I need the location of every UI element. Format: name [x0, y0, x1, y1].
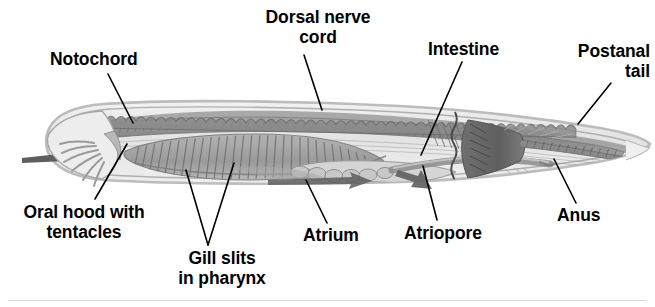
leader-line-postanal-tail — [578, 83, 611, 124]
label-anus-line-0: Anus — [557, 206, 600, 226]
label-atriopore-line-0: Atriopore — [404, 224, 482, 244]
label-dorsal-nerve-cord-line-0: Dorsal nerve — [266, 8, 371, 28]
label-anus: Anus — [557, 206, 600, 226]
label-oral-hood-with-tentacles-line-1: tentacles — [23, 223, 144, 243]
label-gill-slits-in-pharynx: Gill slitsin pharynx — [178, 249, 266, 288]
lancelet-body — [22, 101, 650, 190]
lancelet-anatomy-figure: NotochordDorsal nervecordIntestinePostan… — [0, 0, 655, 307]
label-atrium-line-0: Atrium — [303, 226, 359, 246]
caption-divider-rule — [8, 300, 647, 301]
label-postanal-tail: Postanaltail — [350, 42, 650, 81]
label-notochord-line-0: Notochord — [50, 50, 138, 70]
label-notochord: Notochord — [50, 50, 138, 70]
leader-line-atrium — [306, 180, 327, 223]
label-oral-hood-with-tentacles-line-0: Oral hood with — [23, 203, 144, 223]
label-gill-slits-in-pharynx-line-0: Gill slits — [178, 249, 266, 269]
label-gill-slits-in-pharynx-line-1: in pharynx — [178, 269, 266, 289]
label-postanal-tail-line-1: tail — [350, 62, 650, 82]
label-atrium: Atrium — [303, 226, 359, 246]
label-oral-hood-with-tentacles: Oral hood withtentacles — [23, 203, 144, 242]
label-postanal-tail-line-0: Postanal — [350, 42, 650, 62]
label-atriopore: Atriopore — [404, 224, 482, 244]
